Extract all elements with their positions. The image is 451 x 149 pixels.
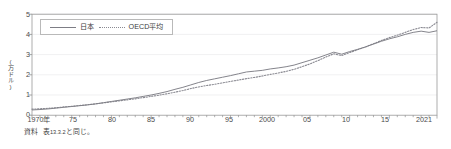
legend-entry-japan: 日本 [50, 23, 94, 31]
chart-legend: 日本 OECD平均 [40, 19, 173, 35]
legend-entry-oecd-average: OECD平均 [99, 23, 164, 31]
solid-line-swatch-icon [50, 24, 76, 31]
source-note-prefix: 表 [43, 128, 50, 135]
y-axis-ticks [29, 14, 32, 115]
legend-label-oecd-average: OECD平均 [129, 23, 164, 31]
series-line-oecd-average [32, 22, 437, 109]
legend-label-japan: 日本 [80, 23, 94, 31]
source-note-table-number: 13.3.2 [50, 129, 66, 135]
source-note-suffix: と同じ。 [66, 128, 94, 135]
dotted-line-swatch-icon [99, 24, 125, 31]
source-note: 資料表13.3.2と同じ。 [24, 128, 94, 136]
series-line-japan [32, 31, 437, 110]
figure-container: (万ドル) 5 4 3 2 1 0 1970年 75 80 85 90 95 2… [0, 0, 451, 149]
source-note-label: 資料 [24, 128, 38, 135]
x-axis-ticks [32, 115, 437, 118]
